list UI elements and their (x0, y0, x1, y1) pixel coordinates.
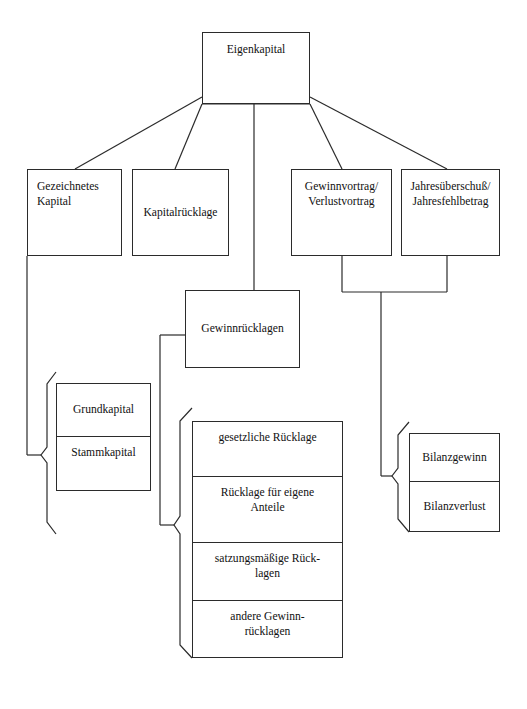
edge-root-to-kapitalruecklage (175, 104, 202, 169)
item-satzungsmaessige-ruecklagen-label: satzungsmäßige Rück- lagen (215, 551, 320, 581)
diagram-canvas: Eigenkapital Gezeichnetes Kapital Kapita… (0, 0, 527, 709)
edge-root-to-gezeichnetes-kapital (75, 97, 202, 169)
node-kapitalruecklage-label: Kapitalrücklage (143, 205, 217, 220)
item-stammkapital-label: Stammkapital (71, 445, 135, 460)
group-bilanz-ergebnis: Bilanzgewinn Bilanzverlust (409, 433, 500, 532)
list-item[interactable]: Stammkapital (57, 437, 150, 492)
node-jahresueberschuss[interactable]: Jahresüberschuß/ Jahresfehlbetrag (401, 169, 500, 256)
item-andere-gewinnruecklagen-label: andere Gewinn- rücklagen (230, 609, 304, 639)
node-eigenkapital[interactable]: Eigenkapital (202, 32, 310, 104)
list-item[interactable]: gesetzliche Rücklage (193, 422, 342, 477)
edge-root-to-gewinnvortrag (310, 104, 342, 169)
brace-ruecklagen-arten (174, 408, 192, 658)
item-grundkapital-label: Grundkapital (73, 402, 134, 417)
node-gewinnvortrag-label: Gewinnvortrag/ Verlustvortrag (305, 179, 378, 209)
list-item[interactable]: andere Gewinn- rücklagen (193, 601, 342, 659)
item-gesetzliche-ruecklage-label: gesetzliche Rücklage (218, 430, 316, 445)
brace-kapital-arten (41, 372, 56, 534)
node-jahresueberschuss-label: Jahresüberschuß/ Jahresfehlbetrag (411, 179, 491, 209)
node-gewinnruecklagen[interactable]: Gewinnrücklagen (185, 290, 300, 368)
node-kapitalruecklage[interactable]: Kapitalrücklage (132, 169, 229, 256)
item-bilanzverlust-label: Bilanzverlust (424, 499, 486, 514)
list-item[interactable]: Bilanzgewinn (410, 434, 499, 482)
list-item[interactable]: Rücklage für eigene Anteile (193, 477, 342, 543)
item-bilanzgewinn-label: Bilanzgewinn (422, 450, 486, 465)
list-item[interactable]: satzungsmäßige Rück- lagen (193, 543, 342, 601)
item-ruecklage-eigene-anteile-label: Rücklage für eigene Anteile (221, 485, 314, 515)
node-eigenkapital-label: Eigenkapital (227, 42, 286, 57)
list-item[interactable]: Grundkapital (57, 384, 150, 437)
node-gewinnruecklagen-label: Gewinnrücklagen (201, 321, 283, 336)
group-kapital-arten: Grundkapital Stammkapital (56, 383, 151, 491)
group-ruecklagen-arten: gesetzliche Rücklage Rücklage für eigene… (192, 421, 343, 658)
node-gezeichnetes-kapital[interactable]: Gezeichnetes Kapital (27, 169, 122, 256)
node-gewinnvortrag[interactable]: Gewinnvortrag/ Verlustvortrag (291, 169, 392, 256)
node-gezeichnetes-kapital-label: Gezeichnetes Kapital (37, 179, 99, 209)
edge-root-to-jahresueberschuss (310, 97, 447, 169)
brace-bilanz-ergebnis (392, 422, 409, 532)
list-item[interactable]: Bilanzverlust (410, 482, 499, 531)
